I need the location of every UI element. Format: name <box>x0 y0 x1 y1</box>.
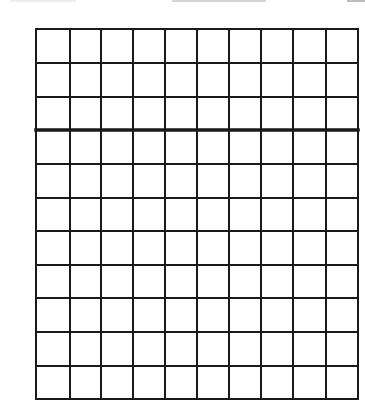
empty-grid <box>0 0 365 420</box>
grid-lines <box>36 29 358 399</box>
